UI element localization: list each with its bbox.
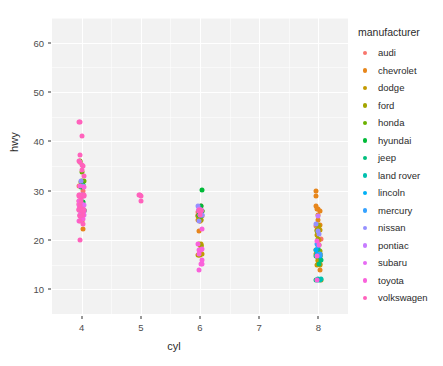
legend: manufacturer audichevroletdodgefordhonda… [358,26,443,307]
legend-item-hyundai[interactable]: hyundai [358,132,443,150]
legend-key-icon [358,51,372,56]
data-point [80,222,85,227]
y-axis-title: hwy [8,132,20,152]
legend-label: volkswagen [378,292,428,303]
data-point [81,184,86,189]
data-point [80,134,85,139]
legend-item-dodge[interactable]: dodge [358,79,443,97]
legend-item-subaru[interactable]: subaru [358,254,443,272]
legend-label: nissan [378,222,405,233]
gridline-minor-y [52,117,348,118]
legend-key-icon [358,121,372,126]
y-tick-label: 10 [22,284,44,295]
legend-item-audi[interactable]: audi [358,44,443,62]
data-point [77,213,82,218]
data-point [317,243,322,248]
y-tick-label: 50 [22,87,44,98]
legend-key-icon [358,103,372,108]
gridline-major-y [52,141,348,142]
x-tick-label: 7 [257,322,262,333]
data-point [317,268,322,273]
x-tick-label: 8 [316,322,321,333]
legend-item-toyota[interactable]: toyota [358,272,443,290]
gridline-minor-y [52,67,348,68]
legend-key-icon [358,173,372,178]
data-point [138,198,143,203]
legend-label: toyota [378,275,404,286]
legend-label: hyundai [378,135,411,146]
data-point [77,120,82,125]
legend-label: audi [378,47,396,58]
plot-panel [52,18,348,314]
data-point [77,159,82,164]
gridline-major-y [52,92,348,93]
data-point [314,239,319,244]
data-point [314,253,319,258]
legend-label: subaru [378,257,407,268]
data-point [82,192,87,197]
data-point [314,222,319,227]
y-tick-label: 30 [22,185,44,196]
legend-key-icon [358,296,372,301]
legend-item-volkswagen[interactable]: volkswagen [358,289,443,307]
legend-label: ford [378,100,394,111]
data-point [137,193,142,198]
legend-key-icon [358,243,372,248]
data-point [199,248,204,253]
y-tick-mark [48,289,51,290]
legend-item-mercury[interactable]: mercury [358,202,443,220]
legend-item-nissan[interactable]: nissan [358,219,443,237]
legend-item-pontiac[interactable]: pontiac [358,237,443,255]
data-point [80,227,85,232]
x-tick-label: 5 [138,322,143,333]
legend-key-icon [358,156,372,161]
gridline-major-y [52,289,348,290]
legend-item-honda[interactable]: honda [358,114,443,132]
data-point [314,188,319,193]
legend-label: honda [378,117,404,128]
y-tick-mark [48,92,51,93]
legend-label: mercury [378,205,412,216]
legend-item-chevrolet[interactable]: chevrolet [358,62,443,80]
legend-label: land rover [378,170,420,181]
legend-key-icon [358,68,372,73]
legend-item-jeep[interactable]: jeep [358,149,443,167]
legend-key-icon [358,278,372,283]
x-tick-mark [140,316,141,319]
gridline-minor-y [52,18,348,19]
x-tick-mark [200,316,201,319]
scatter-plot: hwy 102030405060 45678 cyl manufacturer … [0,0,443,366]
data-point [80,168,85,173]
legend-label: chevrolet [378,65,417,76]
y-tick-label: 40 [22,136,44,147]
legend-items: audichevroletdodgefordhondahyundaijeepla… [358,44,443,307]
legend-key-icon [358,138,372,143]
data-point [78,237,83,242]
y-tick-label: 20 [22,235,44,246]
data-point [81,174,86,179]
data-point [196,252,201,257]
legend-label: jeep [378,152,396,163]
legend-key-icon [358,261,372,266]
data-point [81,209,86,214]
legend-label: lincoln [378,187,405,198]
gridline-major-y [52,43,348,44]
legend-item-land-rover[interactable]: land rover [358,167,443,185]
data-point [315,213,320,218]
y-tick-label: 60 [22,37,44,48]
legend-label: dodge [378,82,404,93]
x-tick-label: 6 [197,322,202,333]
data-point [200,227,205,232]
legend-item-lincoln[interactable]: lincoln [358,184,443,202]
gridline-minor-y [52,166,348,167]
x-tick-mark [81,316,82,319]
y-tick-mark [48,141,51,142]
y-tick-mark [48,240,51,241]
legend-key-icon [358,208,372,213]
data-point [316,262,321,267]
x-tick-mark [259,316,260,319]
y-tick-mark [48,42,51,43]
data-point [316,228,321,233]
legend-item-ford[interactable]: ford [358,97,443,115]
data-point [314,194,319,199]
